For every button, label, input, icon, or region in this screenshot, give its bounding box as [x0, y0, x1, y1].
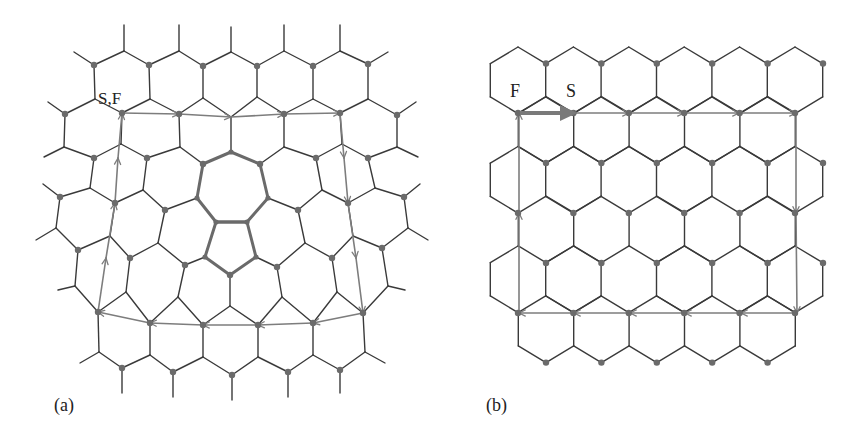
start-label: S	[566, 81, 576, 101]
figure-canvas: S,F (a) F S (b)	[0, 0, 866, 435]
panel-a-atom-nodes	[57, 61, 407, 378]
panel-b-lattice-edges	[490, 47, 822, 363]
panel-a-caption: (a)	[54, 395, 74, 416]
panel-b-burgers-circuit	[516, 110, 800, 316]
panel-a-defect-lattice: S,F (a)	[36, 25, 428, 416]
panel-b-caption: (b)	[486, 395, 507, 416]
start-finish-label: S,F	[98, 89, 121, 108]
panel-b-perfect-lattice: F S (b)	[486, 47, 826, 416]
finish-label: F	[510, 81, 520, 101]
panel-a-lattice-edges	[36, 25, 428, 400]
